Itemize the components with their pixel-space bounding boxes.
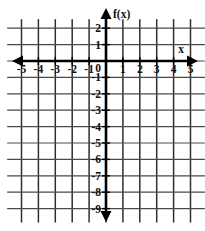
y-tick-labels-group: 21-1-2-3-4-5-6-7-8-9	[91, 22, 101, 214]
y-tick-label: -7	[91, 170, 101, 182]
coordinate-graph: -5-4-3-2-112345 21-1-2-3-4-5-6-7-8-9 0 f…	[0, 0, 205, 231]
x-tick-label: -5	[17, 63, 27, 75]
x-tick-label: 4	[171, 63, 177, 75]
y-tick-label: -3	[91, 104, 101, 116]
x-tick-label: -3	[51, 63, 61, 75]
x-tick-label: -4	[34, 63, 44, 75]
x-tick-label: 2	[137, 63, 143, 75]
origin-label: 0	[95, 62, 101, 74]
y-axis	[101, 8, 112, 222]
x-tick-label: 1	[120, 63, 126, 75]
y-tick-label: -6	[91, 153, 101, 165]
y-tick-label: -8	[91, 186, 101, 198]
y-tick-label: -9	[91, 203, 101, 215]
x-tick-label: 5	[188, 63, 194, 75]
y-tick-label: -2	[91, 88, 101, 100]
arrow-up-icon	[101, 8, 112, 19]
graph-canvas: -5-4-3-2-112345 21-1-2-3-4-5-6-7-8-9 0 f…	[0, 0, 205, 231]
x-tick-label: -2	[67, 63, 77, 75]
y-tick-label: -4	[91, 121, 101, 133]
x-tick-label: 3	[154, 63, 160, 75]
y-axis-label: f(x)	[113, 8, 130, 21]
y-tick-label: 1	[95, 39, 101, 51]
y-tick-label: -5	[91, 137, 101, 149]
x-axis-label: x	[178, 43, 184, 55]
y-tick-label: 2	[95, 22, 101, 34]
arrow-down-icon	[101, 211, 112, 222]
